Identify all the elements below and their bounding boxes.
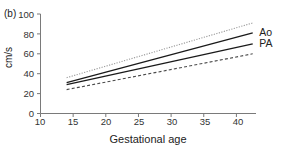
series-line-ao: [67, 33, 253, 83]
series-line-pa-lower-limit: [67, 54, 253, 90]
plot-area: [0, 0, 287, 155]
figure-panel-b: (b) cm/s Gestational age 100 80 60 40 20…: [0, 0, 287, 155]
